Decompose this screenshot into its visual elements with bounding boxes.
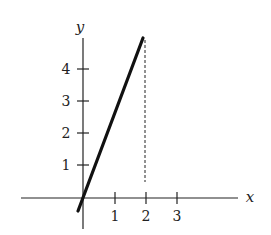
x-tick-label: 2 [142, 208, 151, 224]
y-tick-label: 2 [62, 125, 71, 141]
x-tick-label: 3 [173, 208, 182, 224]
chart: 1 2 3 1 2 3 4 x y [0, 0, 271, 235]
x-tick-label: 1 [111, 208, 120, 224]
plot-area: 1 2 3 1 2 3 4 x y [0, 0, 271, 235]
x-axis-label: x [246, 188, 255, 206]
y-tick-label: 1 [62, 157, 71, 173]
y-tick-label: 3 [62, 93, 71, 109]
data-line [78, 38, 143, 211]
y-axis-label: y [75, 18, 85, 36]
y-tick-label: 4 [62, 61, 71, 77]
